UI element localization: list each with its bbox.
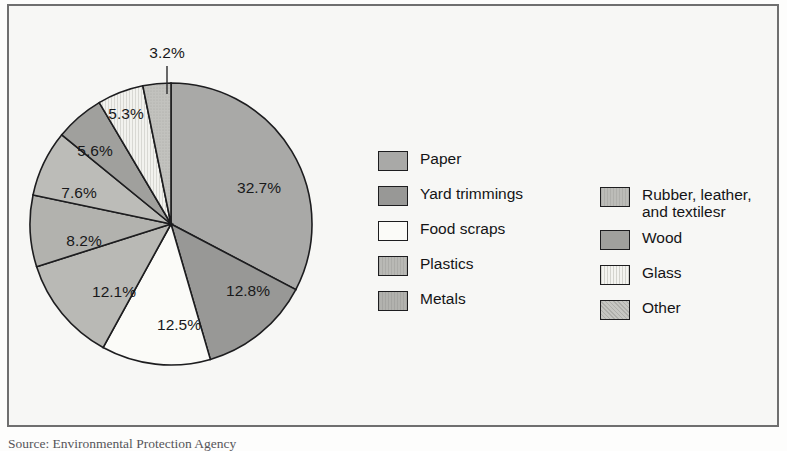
- legend-swatch-yard-trimmings: [378, 186, 408, 206]
- pie-slice-label: 7.6%: [61, 184, 97, 201]
- chart-area: 32.7%12.8%12.5%12.1%8.2%7.6%5.6%5.3%3.2%…: [0, 0, 787, 451]
- legend-label-yard-trimmings: Yard trimmings: [420, 185, 523, 202]
- pie-slice-label: 12.5%: [157, 316, 201, 333]
- legend-swatch-food-scraps: [378, 221, 408, 241]
- legend-label-food-scraps: Food scraps: [420, 220, 505, 237]
- legend-label-glass: Glass: [642, 264, 682, 281]
- legend-item[interactable]: Other: [600, 299, 751, 325]
- legend-label-wood: Wood: [642, 229, 682, 246]
- legend-label-paper: Paper: [420, 150, 461, 167]
- legend-swatch-rubber-leather-textiles: [600, 187, 630, 207]
- legend-item[interactable]: Glass: [600, 264, 751, 290]
- pie-slice-label: 32.7%: [237, 179, 281, 196]
- pie-slice-label: 12.1%: [92, 283, 136, 300]
- pie-slice-label: 12.8%: [226, 282, 270, 299]
- legend-column-right: Rubber, leather, and textilesr Wood Glas…: [600, 186, 751, 334]
- legend-item[interactable]: Yard trimmings: [378, 185, 523, 211]
- figure-container: 32.7%12.8%12.5%12.1%8.2%7.6%5.6%5.3%3.2%…: [0, 0, 787, 451]
- legend-item[interactable]: Plastics: [378, 255, 523, 281]
- legend-item[interactable]: Metals: [378, 290, 523, 316]
- legend-swatch-glass: [600, 265, 630, 285]
- legend-swatch-other: [600, 300, 630, 320]
- legend-swatch-wood: [600, 230, 630, 250]
- legend-item[interactable]: Paper: [378, 150, 523, 176]
- pie-slice-label: 8.2%: [66, 232, 102, 249]
- legend-column-left: Paper Yard trimmings Food scraps Plastic…: [378, 150, 523, 325]
- source-note: Source: Environmental Protection Agency: [8, 436, 236, 451]
- pie-slice-label: 5.6%: [77, 142, 113, 159]
- legend-item[interactable]: Food scraps: [378, 220, 523, 246]
- legend-item[interactable]: Wood: [600, 229, 751, 255]
- pie-slice-label: 5.3%: [108, 105, 144, 122]
- legend-label-other: Other: [642, 299, 681, 316]
- legend-label-plastics: Plastics: [420, 255, 473, 272]
- legend-label-rubber-leather-textiles: Rubber, leather, and textilesr: [642, 186, 751, 220]
- pie-slice-label: 3.2%: [149, 44, 185, 61]
- legend-swatch-plastics: [378, 256, 408, 276]
- legend-item[interactable]: Rubber, leather, and textilesr: [600, 186, 751, 226]
- legend-swatch-paper: [378, 151, 408, 171]
- legend-swatch-metals: [378, 291, 408, 311]
- legend-label-metals: Metals: [420, 290, 466, 307]
